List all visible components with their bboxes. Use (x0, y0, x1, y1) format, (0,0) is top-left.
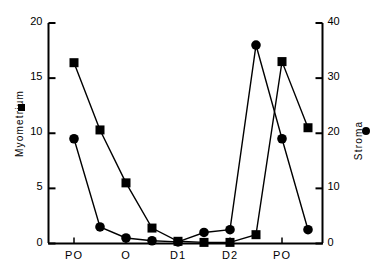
x-tick-label: PO (262, 249, 302, 261)
data-point-square (252, 230, 261, 239)
data-point-square (122, 178, 131, 187)
left-tick-label: 5 (17, 180, 43, 192)
axis-lines (48, 23, 323, 244)
right-tick-label: 30 (328, 70, 354, 82)
left-tick-label: 20 (17, 15, 43, 27)
series-line (74, 62, 308, 243)
left-tick-label: 0 (17, 236, 43, 248)
data-series-layer (69, 40, 313, 247)
data-point-circle (199, 228, 209, 238)
left-axis-title: Myometrium (14, 79, 25, 169)
left-axis-ticks (49, 23, 56, 244)
x-tick-label: O (106, 249, 146, 261)
data-point-square (200, 238, 209, 247)
right-tick-label: 10 (328, 180, 354, 192)
right-axis-title: Stroma (353, 101, 364, 181)
series-myometrium (70, 57, 313, 247)
data-point-circle (251, 40, 261, 50)
data-point-circle (173, 237, 183, 247)
right-tick-label: 20 (328, 125, 354, 137)
data-point-circle (277, 134, 287, 144)
data-point-circle (225, 225, 235, 235)
data-point-circle (121, 233, 131, 243)
data-point-square (96, 125, 105, 134)
stroma-legend-circle-icon (362, 127, 370, 135)
data-point-square (148, 224, 157, 233)
data-point-square (70, 58, 79, 67)
x-tick-label: D2 (210, 249, 250, 261)
right-axis-ticks (316, 23, 323, 244)
x-tick-label: PO (54, 249, 94, 261)
data-point-square (278, 57, 287, 66)
data-point-circle (303, 225, 313, 235)
data-point-circle (69, 134, 79, 144)
x-tick-label: D1 (158, 249, 198, 261)
data-point-square (226, 238, 235, 247)
chart-container: Myometrium Stroma 20151050403020100POOD1… (0, 0, 380, 272)
plot-area (0, 0, 380, 272)
left-tick-label: 15 (17, 70, 43, 82)
series-line (74, 45, 308, 242)
data-point-circle (147, 236, 157, 246)
data-point-circle (95, 222, 105, 232)
right-tick-label: 40 (328, 15, 354, 27)
myometrium-legend-square-icon (18, 104, 25, 111)
left-tick-label: 10 (17, 125, 43, 137)
data-point-square (304, 123, 313, 132)
right-tick-label: 0 (328, 236, 354, 248)
series-stroma (69, 40, 313, 246)
